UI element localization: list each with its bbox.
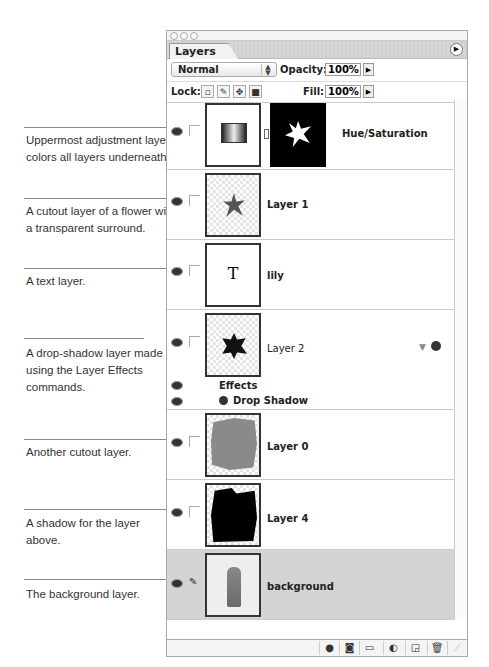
annotation-adjustment: Uppermost adjustment layer colors all la… bbox=[26, 132, 176, 166]
effect-name[interactable]: Drop Shadow bbox=[233, 395, 308, 406]
layer-row-hue-saturation[interactable]: Hue/Saturation bbox=[167, 100, 455, 170]
chevron-updown-icon: ▲▼ bbox=[261, 64, 274, 75]
lock-paint-icon[interactable]: ✎ bbox=[217, 85, 230, 98]
effect-fx-icon bbox=[219, 396, 228, 405]
eye-icon[interactable] bbox=[171, 438, 183, 447]
tab-bar: Layers ▶ bbox=[167, 41, 467, 59]
new-layer-icon[interactable]: ◲ bbox=[405, 641, 425, 655]
blend-mode-value: Normal bbox=[178, 64, 219, 75]
link-slot[interactable] bbox=[189, 195, 200, 206]
annotation-another-cutout: Another cutout layer. bbox=[26, 444, 176, 461]
background-thumbnail bbox=[205, 553, 261, 617]
blend-row: Normal▲▼ Opacity: 100% ▶ bbox=[167, 59, 467, 82]
cutout-shape bbox=[211, 418, 257, 470]
lock-all-icon[interactable]: ■ bbox=[249, 85, 262, 98]
effects-label: Effects bbox=[219, 380, 257, 391]
new-group-icon[interactable]: ▭ bbox=[359, 641, 379, 655]
lock-label: Lock: bbox=[171, 86, 201, 97]
fill-input[interactable]: 100% bbox=[325, 85, 361, 98]
title-bar[interactable] bbox=[167, 31, 467, 41]
link-slot[interactable] bbox=[189, 506, 200, 517]
layer-row-lily[interactable]: T lily bbox=[167, 240, 455, 310]
panel-footer: ● ◙ ▭ ◐ ◲ 🗑 ⟋ bbox=[167, 639, 467, 656]
layer-name: Hue/Saturation bbox=[342, 128, 428, 139]
adjustment-thumbnail bbox=[205, 103, 261, 167]
flower-shape bbox=[223, 193, 245, 217]
link-slot[interactable] bbox=[189, 436, 200, 447]
effects-fx-icon bbox=[431, 341, 441, 351]
shadow-shape bbox=[211, 488, 257, 542]
paintbrush-icon[interactable]: ✎ bbox=[189, 576, 197, 587]
link-slot[interactable] bbox=[189, 336, 200, 347]
fill-label: Fill: bbox=[303, 86, 324, 97]
layer-thumbnail bbox=[205, 413, 261, 477]
resize-grip-icon[interactable]: ⟋ bbox=[447, 641, 467, 655]
mask-thumbnail bbox=[270, 103, 326, 167]
layer-row-layer-0[interactable]: Layer 0 bbox=[167, 410, 455, 480]
fill-slider-arrow-icon[interactable]: ▶ bbox=[363, 85, 374, 98]
adjustment-icon bbox=[221, 123, 247, 143]
layer-name: lily bbox=[267, 270, 284, 281]
layer-name: Layer 1 bbox=[267, 199, 308, 210]
layer-name: Layer 4 bbox=[267, 513, 308, 524]
layer-thumbnail bbox=[205, 173, 261, 237]
trash-icon[interactable]: 🗑 bbox=[427, 641, 447, 655]
zoom-icon[interactable] bbox=[190, 32, 198, 40]
layer-row-layer-2[interactable]: Layer 2 ▼ Effects Drop Shadow bbox=[167, 310, 455, 410]
text-thumbnail: T bbox=[205, 243, 261, 307]
eye-icon[interactable] bbox=[171, 338, 183, 347]
layers-panel: Layers ▶ Normal▲▼ Opacity: 100% ▶ Lock: … bbox=[166, 30, 468, 657]
star-shape bbox=[221, 333, 247, 359]
opacity-slider-arrow-icon[interactable]: ▶ bbox=[363, 63, 374, 76]
close-icon[interactable] bbox=[170, 32, 178, 40]
link-slot[interactable] bbox=[189, 125, 200, 136]
layers-list: Hue/Saturation Layer 1 T lily Layer 2 bbox=[167, 100, 455, 618]
link-slot[interactable] bbox=[189, 265, 200, 276]
eye-icon[interactable] bbox=[171, 579, 183, 588]
opacity-label: Opacity: bbox=[280, 64, 327, 75]
layer-row-layer-1[interactable]: Layer 1 bbox=[167, 170, 455, 240]
statue-shape bbox=[227, 567, 241, 607]
lock-move-icon[interactable]: ✥ bbox=[233, 85, 246, 98]
leader-line bbox=[24, 338, 144, 339]
eye-icon[interactable] bbox=[171, 127, 183, 136]
layer-style-icon[interactable]: ● bbox=[319, 641, 339, 655]
eye-icon[interactable] bbox=[171, 267, 183, 276]
annotation-drop-shadow: A drop-shadow layer made using the Layer… bbox=[26, 345, 176, 396]
flower-mask-shape bbox=[285, 121, 311, 147]
panel-menu-icon[interactable]: ▶ bbox=[450, 43, 463, 56]
annotation-text-layer: A text layer. bbox=[26, 273, 176, 290]
annotation-shadow: A shadow for the layer above. bbox=[26, 515, 176, 549]
add-mask-icon[interactable]: ◙ bbox=[339, 641, 359, 655]
layer-thumbnail bbox=[205, 313, 261, 377]
eye-icon[interactable] bbox=[171, 197, 183, 206]
annotation-background: The background layer. bbox=[26, 586, 176, 603]
layer-thumbnail bbox=[205, 483, 261, 547]
new-adjustment-icon[interactable]: ◐ bbox=[383, 641, 403, 655]
annotation-cutout-flower: A cutout layer of a flower with a transp… bbox=[26, 203, 176, 237]
layer-name: Layer 2 bbox=[267, 343, 304, 354]
expand-effects-icon[interactable]: ▼ bbox=[419, 342, 426, 352]
effects-eye-icon[interactable] bbox=[171, 381, 183, 390]
layer-name: background bbox=[267, 581, 334, 592]
scrollbar[interactable] bbox=[454, 100, 467, 618]
blend-mode-select[interactable]: Normal▲▼ bbox=[171, 62, 277, 77]
minimize-icon[interactable] bbox=[180, 32, 188, 40]
layer-row-background[interactable]: ✎ background bbox=[167, 550, 455, 620]
opacity-input[interactable]: 100% bbox=[325, 63, 361, 76]
layer-name: Layer 0 bbox=[267, 441, 308, 452]
tab-layers[interactable]: Layers bbox=[169, 43, 229, 59]
lock-transparent-icon[interactable]: ▫ bbox=[201, 85, 214, 98]
drop-shadow-eye-icon[interactable] bbox=[171, 397, 183, 406]
eye-icon[interactable] bbox=[171, 508, 183, 517]
mask-link-icon[interactable] bbox=[264, 129, 269, 139]
layer-row-layer-4[interactable]: Layer 4 bbox=[167, 480, 455, 550]
